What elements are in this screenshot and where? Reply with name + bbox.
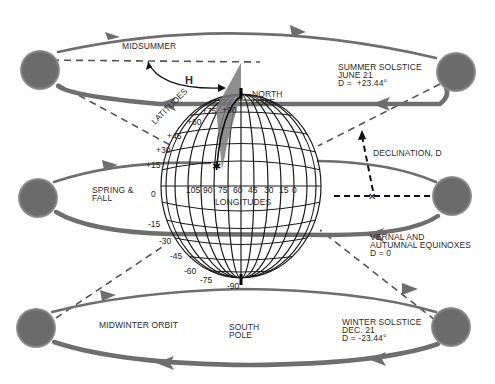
- longitude-tick: 0: [292, 186, 297, 195]
- latitude-tick: +15: [146, 161, 160, 170]
- svg-text:✕: ✕: [368, 191, 376, 202]
- latitude-tick: +75: [202, 107, 216, 116]
- longitude-tick: 15: [279, 186, 288, 195]
- sun-icon: [431, 307, 471, 347]
- summer-solstice-label: SUMMER SOLSTICE JUNE 21 D = +23.44°: [338, 63, 422, 87]
- sun-icon: [18, 178, 58, 218]
- longitude-tick: 60: [233, 186, 242, 195]
- latitude-tick: -90: [227, 282, 239, 291]
- midwinter-label: MIDWINTER ORBIT: [99, 321, 178, 329]
- latitude-tick: -45: [170, 252, 182, 261]
- sun-icon: [20, 50, 60, 90]
- observer-point-icon: ✱: [212, 160, 221, 172]
- sun-icon: [432, 176, 472, 216]
- latitude-tick: +30: [156, 146, 170, 155]
- spring-fall-label: SPRING & FALL: [92, 186, 133, 202]
- longitude-tick: 105: [186, 186, 200, 195]
- sun-icon: [16, 308, 56, 348]
- winter-solstice-label: WINTER SOLSTICE DEC. 21 D = -23.44°: [342, 318, 421, 342]
- north-pole-label: NORTH POLE: [252, 90, 283, 106]
- latitude-tick: -75: [200, 276, 212, 285]
- hour-angle-label: H: [185, 76, 193, 84]
- sun-icon: [436, 52, 476, 92]
- longitude-tick: 30: [264, 186, 273, 195]
- latitude-tick: +45: [167, 132, 181, 141]
- south-pole-label: SOUTH POLE: [229, 323, 259, 339]
- midsummer-label: MIDSUMMER: [122, 42, 176, 50]
- longitude-tick: 90: [203, 186, 212, 195]
- latitude-tick: 0: [151, 190, 156, 199]
- longitude-tick: 45: [248, 186, 257, 195]
- latitude-tick: -15: [148, 220, 160, 229]
- latitude-tick: -30: [159, 237, 171, 246]
- longitude-tick: 75: [218, 186, 227, 195]
- latitude-tick: -60: [184, 267, 196, 276]
- declination-label: DECLINATION, D: [373, 149, 442, 157]
- longitudes-label: LONGITUDES: [215, 198, 271, 206]
- latitude-tick: +90: [222, 106, 236, 115]
- equinoxes-label: VERNAL AND AUTUMNAL EQUINOXES D = 0: [370, 233, 471, 257]
- latitude-tick: +60: [187, 118, 201, 127]
